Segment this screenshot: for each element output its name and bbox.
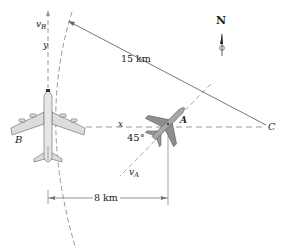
point-A-label: A (180, 116, 187, 125)
x-axis-label: x (118, 120, 123, 129)
vA-sub: A (134, 171, 139, 179)
point-B-label: B (15, 135, 22, 145)
compass-label: N (216, 15, 226, 26)
vB-label: vB (36, 20, 46, 31)
angle-label: 45° (127, 133, 145, 143)
y-axis-label: y (43, 41, 48, 50)
distance-8km-label: 8 km (94, 193, 118, 203)
distance-15km-label: 15 km (121, 54, 151, 64)
point-C-label: C (268, 122, 275, 132)
vA-label: vA (129, 168, 139, 179)
north-arrow-icon (220, 34, 225, 56)
relative-motion-diagram: N vB y 15 km B x A C 45° vA 8 km (0, 0, 284, 250)
plane-B-icon (11, 91, 85, 162)
distance-15km-line (68, 21, 266, 125)
vB-sub: B (41, 23, 46, 31)
